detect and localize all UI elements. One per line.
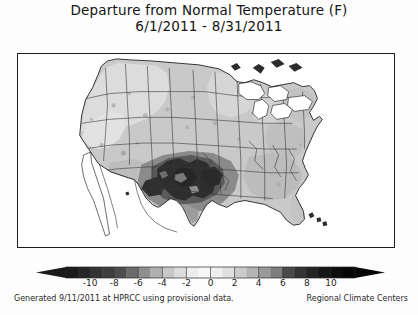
colorbar-segment [271, 267, 283, 278]
colorbar-segment [307, 267, 319, 278]
colorbar-segment [66, 267, 78, 278]
colorbar-tick-label: 8 [304, 278, 310, 289]
colorbar-tick-label: 0 [208, 278, 214, 289]
colorbar-tick-label: 6 [280, 278, 286, 289]
footer-attribution: Regional Climate Centers [307, 293, 408, 304]
colorbar-segment [211, 267, 223, 278]
colorbar-segment [343, 267, 355, 278]
map-panel [17, 53, 395, 248]
colorbar-segment [259, 267, 271, 278]
colorbar-tick-label: -10 [83, 278, 98, 289]
colorbar-segment [235, 267, 247, 278]
colorbar-tick-label: 10 [325, 278, 336, 289]
colorbar-segment [150, 267, 162, 278]
colorbar-segment [223, 267, 235, 278]
colorbar-tick-labels: -10-8-6-4-20246810 [36, 278, 385, 290]
colorbar-right-extend [355, 267, 385, 278]
colorbar-segment [319, 267, 331, 278]
colorbar-segment [126, 267, 138, 278]
colorbar-segment [102, 267, 114, 278]
colorbar-segment [331, 267, 343, 278]
colorbar-segment [162, 267, 174, 278]
chart-title-block: Departure from Normal Temperature (F) 6/… [0, 2, 418, 35]
colorbar-segment [283, 267, 295, 278]
climate-map-page: Departure from Normal Temperature (F) 6/… [0, 0, 418, 315]
colorbar-segment [78, 267, 90, 278]
page-subtitle-daterange: 6/1/2011 - 8/31/2011 [0, 18, 418, 35]
colorbar-tick-label: -6 [134, 278, 143, 289]
colorbar-tick-label: -2 [182, 278, 191, 289]
colorbar-segment [198, 267, 210, 278]
colorbar-tick-label: 2 [232, 278, 238, 289]
colorbar-left-extend [36, 267, 66, 278]
colorbar-segment [247, 267, 259, 278]
colorbar-tick-label: -4 [158, 278, 167, 289]
colorbar-segment [186, 267, 198, 278]
colorbar-segment [114, 267, 126, 278]
colorbar-segment [138, 267, 150, 278]
colorbar-segment [295, 267, 307, 278]
page-title: Departure from Normal Temperature (F) [0, 2, 418, 18]
colorbar-segment [174, 267, 186, 278]
us-departure-temperature-map [18, 54, 394, 247]
colorbar-tick-label: 4 [256, 278, 262, 289]
footer-generated-note: Generated 9/11/2011 at HPRCC using provi… [14, 293, 234, 304]
colorbar-tick-label: -8 [110, 278, 119, 289]
colorbar-segment [90, 267, 102, 278]
